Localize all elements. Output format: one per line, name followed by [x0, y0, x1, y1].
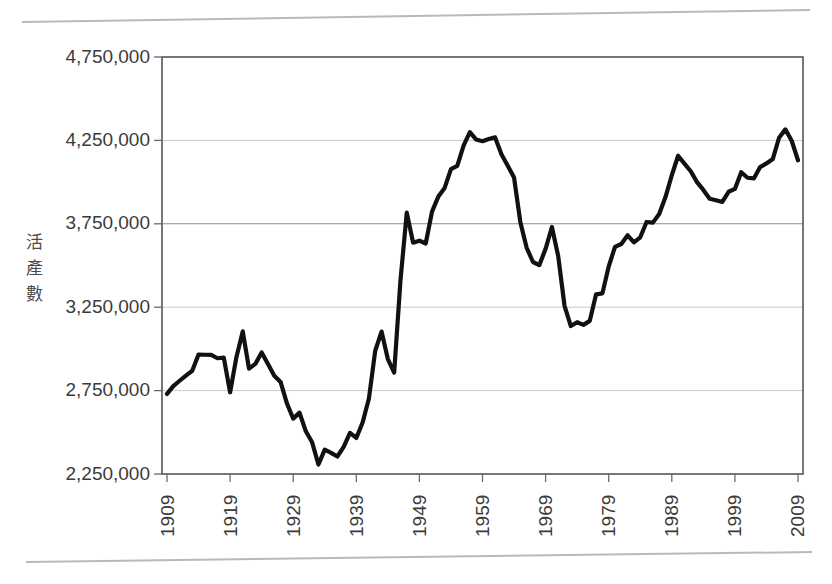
- y-axis-title-char: 數: [26, 284, 43, 304]
- x-axis-tick-labels: 1909 1919 1929 1939 1949 1959 1969 1979 …: [157, 495, 808, 537]
- x-tick-label: 1979: [598, 495, 619, 537]
- live-births-line-chart: 4,750,000 4,250,000 3,750,000 3,250,000 …: [0, 0, 832, 584]
- y-tick-marks: [154, 57, 162, 474]
- chart-svg-canvas: 4,750,000 4,250,000 3,750,000 3,250,000 …: [0, 0, 832, 584]
- x-tick-marks: [167, 474, 798, 482]
- x-tick-label: 1919: [220, 495, 241, 537]
- y-axis-title: 活 產 數: [26, 232, 43, 304]
- y-tick-label: 2,250,000: [65, 463, 150, 484]
- x-tick-label: 1989: [661, 495, 682, 537]
- y-tick-label: 4,250,000: [65, 129, 150, 150]
- x-tick-label: 2009: [787, 495, 808, 537]
- x-tick-label: 1999: [724, 495, 745, 537]
- x-tick-label: 1969: [535, 495, 556, 537]
- y-tick-label: 3,250,000: [65, 296, 150, 317]
- y-tick-label: 4,750,000: [65, 46, 150, 67]
- x-tick-label: 1939: [346, 495, 367, 537]
- x-tick-label: 1929: [283, 495, 304, 537]
- page-canvas: 4,750,000 4,250,000 3,750,000 3,250,000 …: [0, 0, 832, 584]
- y-tick-label: 2,750,000: [65, 379, 150, 400]
- x-tick-label: 1909: [157, 495, 178, 537]
- plot-area-background: [162, 57, 803, 474]
- y-axis-tick-labels: 4,750,000 4,250,000 3,750,000 3,250,000 …: [65, 46, 150, 484]
- y-axis-title-char: 活: [26, 232, 43, 252]
- x-tick-label: 1949: [409, 495, 430, 537]
- x-tick-label: 1959: [472, 495, 493, 537]
- y-axis-title-char: 產: [26, 258, 43, 278]
- y-tick-label: 3,750,000: [65, 212, 150, 233]
